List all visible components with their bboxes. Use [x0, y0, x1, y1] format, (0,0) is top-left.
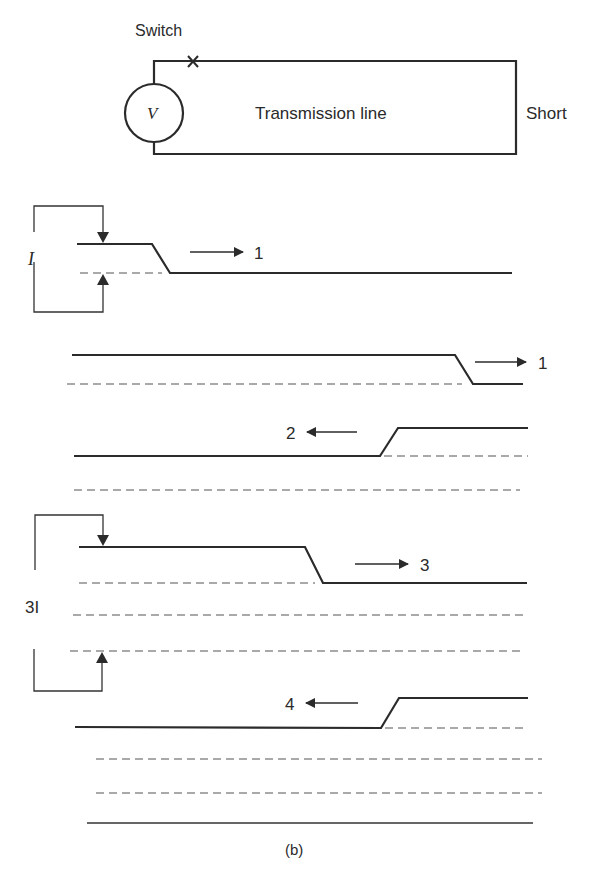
panel-step-2: 2	[74, 424, 528, 490]
wavefront-3	[79, 547, 527, 583]
wavefront-1	[77, 244, 512, 273]
short-label: Short	[526, 104, 567, 123]
panel-step-1-end: 1	[67, 354, 547, 384]
figure-caption: (b)	[285, 841, 303, 858]
panel-step-4: 4	[75, 695, 542, 823]
wavefront-2	[74, 428, 528, 456]
step-label: 1	[254, 244, 263, 263]
current-label-3i: 3I	[25, 598, 39, 617]
source-label: V	[147, 104, 160, 123]
switch-label: Switch	[135, 22, 182, 39]
arrow-down-icon	[97, 535, 109, 546]
current-label-i: I	[27, 249, 35, 269]
arrow-up-icon	[97, 274, 109, 285]
step-label: 1	[538, 354, 547, 373]
current-bracket-i: I	[27, 206, 109, 312]
transmission-line-diagram: Switch V Transmission line Short I 1 1	[0, 0, 591, 890]
panel-step-3: 3I 3	[25, 515, 527, 691]
current-bracket-3i: 3I	[25, 515, 109, 691]
step-label: 4	[285, 695, 294, 714]
line-label: Transmission line	[255, 104, 387, 123]
arrow-up-icon	[96, 652, 108, 663]
wavefront-1-end	[72, 355, 523, 384]
arrow-down-icon	[97, 232, 109, 243]
wavefront-4	[75, 698, 528, 728]
step-label: 3	[420, 556, 429, 575]
panel-step-1: I 1	[27, 206, 512, 312]
step-label: 2	[286, 424, 295, 443]
circuit-schematic: Switch V Transmission line Short	[125, 22, 567, 154]
